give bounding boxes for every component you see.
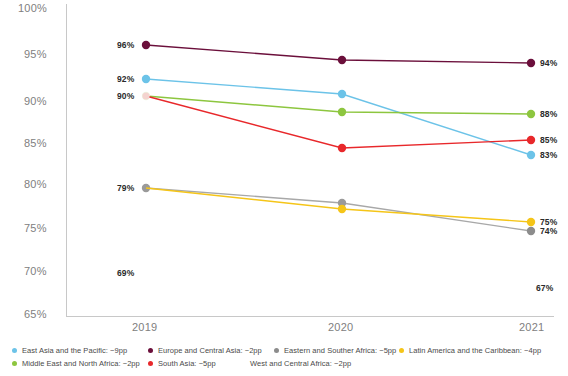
data-point	[338, 144, 346, 152]
data-point	[527, 151, 535, 159]
point-label-middle-east-2019: 90%	[117, 91, 134, 101]
legend-dot-icon	[12, 348, 17, 353]
legend-item-west-and-central-africa[interactable]: West and Central Africa: −2pp	[240, 359, 351, 368]
legend-dot-icon	[274, 348, 279, 353]
legend-item-middle-east-and-north-africa[interactable]: Middle East and North Africa: −2pp	[12, 359, 140, 368]
data-point	[338, 56, 346, 64]
plot-area: 100% 95% 90% 85% 80% 75% 70% 65%	[0, 0, 568, 340]
legend-item-europe-and-central-asia[interactable]: Europe and Central Asia: −2pp	[148, 346, 262, 355]
x-tick-2019: 2019	[132, 321, 157, 333]
data-point	[338, 108, 346, 116]
data-point	[527, 218, 535, 226]
chart-legend: East Asia and the Pacific: −9pp Europe a…	[8, 344, 568, 374]
point-label-europe-2021: 94%	[540, 58, 557, 68]
legend-label: West and Central Africa: −2pp	[250, 359, 351, 368]
legend-label: Europe and Central Asia: −2pp	[158, 346, 262, 355]
series-south-asia	[142, 92, 535, 152]
legend-label: Middle East and North Africa: −2pp	[22, 359, 140, 368]
data-point	[338, 205, 346, 213]
data-point	[527, 136, 535, 144]
data-point	[142, 92, 149, 99]
point-label-east-asia-2019: 92%	[117, 74, 134, 84]
data-point	[142, 41, 150, 49]
legend-label: East Asia and the Pacific: −9pp	[22, 346, 127, 355]
legend-item-east-asia-and-the-pacific[interactable]: East Asia and the Pacific: −9pp	[12, 346, 127, 355]
data-point	[527, 227, 535, 235]
series-layer	[0, 0, 568, 340]
series-latin-america-and-the-caribbean	[146, 188, 535, 226]
legend-label: South Asia: −5pp	[158, 359, 216, 368]
line-chart: 100% 95% 90% 85% 80% 75% 70% 65%	[0, 0, 568, 376]
point-label-eastern-africa-2019: 79%	[117, 183, 134, 193]
legend-dot-icon	[148, 348, 153, 353]
annotation-67-2021: 67%	[536, 283, 553, 293]
x-axis-line	[66, 316, 554, 317]
legend-dot-icon	[240, 361, 245, 366]
point-label-east-asia-2021: 83%	[540, 150, 557, 160]
point-label-middle-east-2021: 88%	[540, 109, 557, 119]
legend-label: Latin America and the Caribbean: −4pp	[409, 346, 541, 355]
legend-label: Eastern and Souther Africa: −5pp	[284, 346, 396, 355]
annotation-69-2019: 69%	[117, 268, 134, 278]
legend-item-eastern-and-souther-africa[interactable]: Eastern and Souther Africa: −5pp	[274, 346, 396, 355]
data-point	[338, 90, 346, 98]
point-label-eastern-africa-2021: 74%	[540, 226, 557, 236]
legend-item-latin-america-and-the-caribbean[interactable]: Latin America and the Caribbean: −4pp	[399, 346, 541, 355]
series-europe-and-central-asia	[142, 41, 535, 67]
legend-dot-icon	[12, 361, 17, 366]
x-tick-2020: 2020	[328, 321, 353, 333]
legend-item-south-asia[interactable]: South Asia: −5pp	[148, 359, 216, 368]
legend-dot-icon	[148, 361, 153, 366]
x-tick-2021: 2021	[519, 321, 544, 333]
data-point	[527, 59, 535, 67]
point-label-europe-2019: 96%	[117, 40, 134, 50]
legend-dot-icon	[399, 348, 404, 353]
data-point	[142, 75, 150, 83]
data-point	[527, 110, 535, 118]
point-label-south-asia-2021: 85%	[540, 135, 557, 145]
